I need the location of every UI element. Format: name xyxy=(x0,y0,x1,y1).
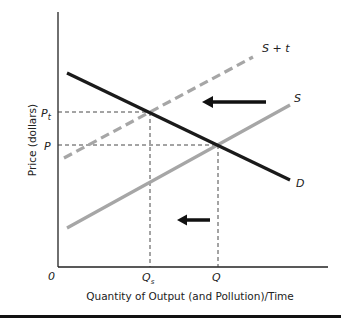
quantity-shift-arrow-icon xyxy=(177,215,210,226)
curve-label-d: D xyxy=(296,177,304,190)
supply-curve xyxy=(67,105,290,228)
x-axis-title: Quantity of Output (and Pollution)/Time xyxy=(86,290,293,302)
chart: S + t S D Pt P 0 Qs Q Quantity of Output… xyxy=(0,0,341,320)
curve-label-s-plus-t: S + t xyxy=(262,42,290,55)
origin-label: 0 xyxy=(48,270,55,283)
y-tick-p: P xyxy=(44,140,51,153)
supply-shift-arrow-icon xyxy=(202,96,266,108)
x-tick-q: Q xyxy=(212,271,221,284)
y-tick-pt: Pt xyxy=(41,107,52,122)
x-tick-qs: Qs xyxy=(142,271,155,286)
curve-label-s: S xyxy=(294,92,301,105)
y-axis-title: Price (dollars) xyxy=(26,104,38,176)
demand-curve xyxy=(67,73,290,180)
bottom-rule xyxy=(0,315,341,318)
